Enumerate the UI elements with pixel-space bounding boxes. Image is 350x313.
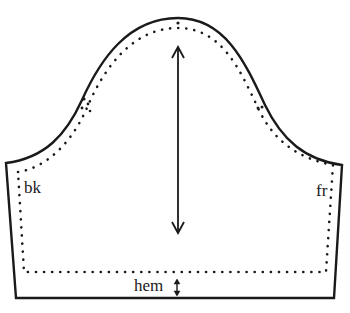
label-hem: hem [134, 276, 163, 295]
seam-line-dotted [18, 28, 333, 272]
front-notch-marks [257, 106, 264, 110]
cut-line-outline [6, 18, 342, 298]
grainline-arrow-icon [172, 47, 184, 233]
hem-depth-arrow-icon [174, 279, 180, 296]
sleeve-pattern-diagram: bk fr hem [0, 0, 350, 313]
label-front: fr [316, 181, 328, 200]
top-center-mark [176, 21, 179, 24]
label-back: bk [24, 178, 42, 197]
